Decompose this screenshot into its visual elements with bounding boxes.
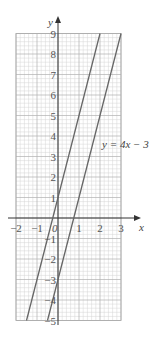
major-grid xyxy=(16,34,121,321)
x-tick-label: −1 xyxy=(31,222,43,234)
chart: −2−1123 −5−4−3−2−1123456789 x y 0 y = 4x… xyxy=(0,0,154,338)
x-tick-label: −2 xyxy=(10,222,22,234)
annotations: y = 4x − 3 xyxy=(101,138,149,150)
y-tick-label: 4 xyxy=(51,130,57,142)
x-tick-label: 1 xyxy=(76,222,82,234)
y-axis-label: y xyxy=(47,16,53,28)
y-tick-label: 7 xyxy=(51,69,57,81)
y-tick-label: 6 xyxy=(51,89,57,101)
y-tick-label: 9 xyxy=(51,28,57,40)
x-tick-label: 3 xyxy=(118,222,124,234)
y-tick-label: −3 xyxy=(44,274,56,286)
y-tick-label: −1 xyxy=(44,233,56,245)
y-tick-label: −4 xyxy=(44,294,56,306)
y-tick-label: 2 xyxy=(51,171,57,183)
y-tick-label: 1 xyxy=(51,192,57,204)
x-tick-label: 2 xyxy=(97,222,103,234)
y-tick-label: −5 xyxy=(44,315,56,327)
x-axis-label: x xyxy=(138,221,144,233)
y-tick-label: −2 xyxy=(44,253,56,265)
y-tick-label: 5 xyxy=(51,110,57,122)
origin-label: 0 xyxy=(52,222,58,234)
y-axis-arrow-icon xyxy=(55,16,61,23)
y-tick-label: 8 xyxy=(51,48,57,60)
x-tick-labels: −2−1123 xyxy=(10,222,124,234)
line-equation-label: y = 4x − 3 xyxy=(101,138,149,150)
y-tick-label: 3 xyxy=(51,151,57,163)
